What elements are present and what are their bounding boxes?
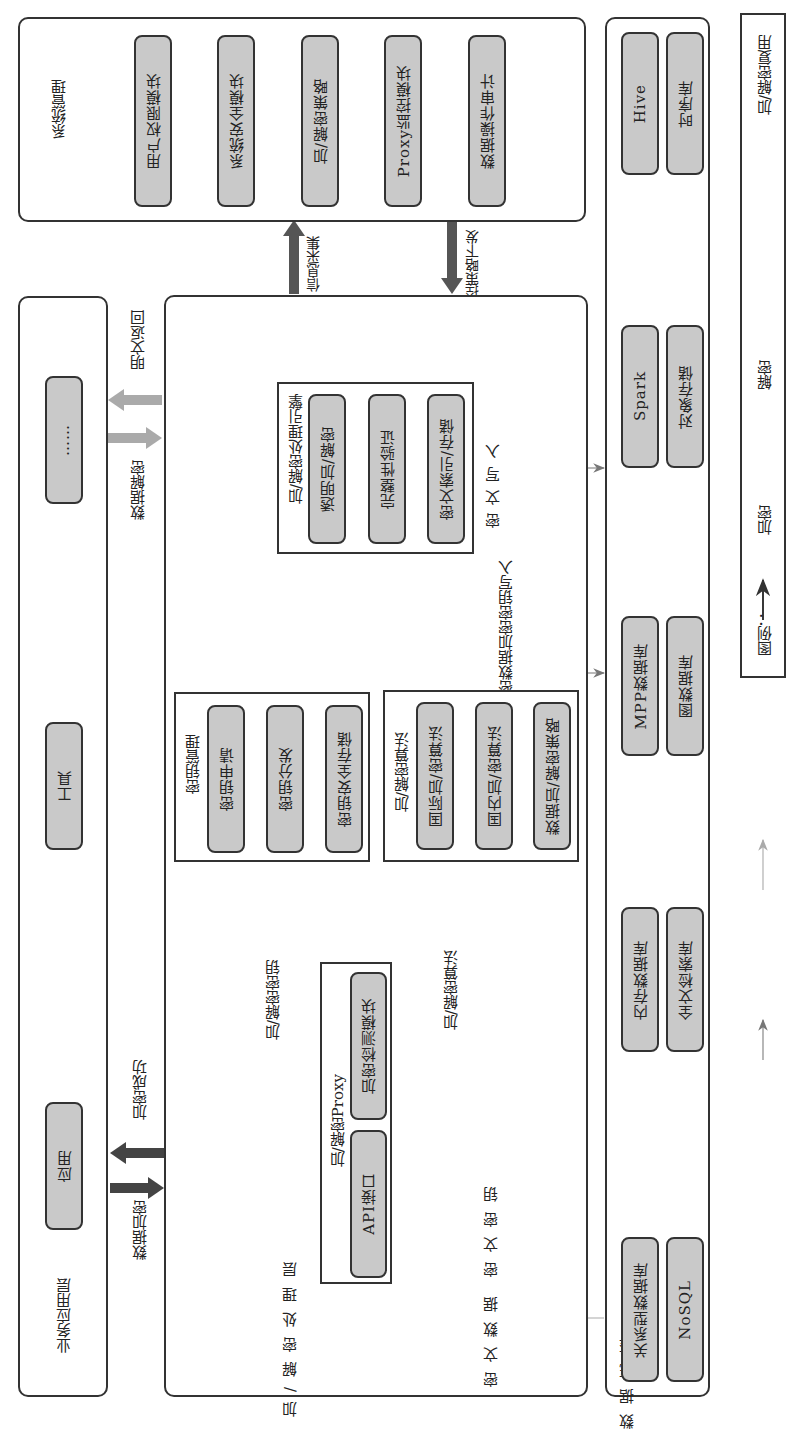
crypto-algorithm-label: 加/解密算法 (440, 950, 461, 1030)
key-request-step: 密钥申请 (207, 705, 245, 853)
data-encrypt-arrow (110, 1177, 164, 1199)
system-management-panel: 系统管理 用户权限模块 系统安全模块 加/解密策略 Proxy监控模块 数据操作… (18, 17, 586, 222)
system-security-module: 系统安全模块 (217, 35, 255, 207)
info-collect-label: 信息采集 (306, 236, 340, 292)
spark-store: Spark (621, 325, 659, 468)
key-secure-store-step: 密钥安全存储 (325, 705, 363, 853)
legend-box: 图例： 加密 解密 加/解密复用 (740, 13, 786, 678)
data-decrypt-arrow (108, 427, 162, 449)
legend-title: 图例： (754, 611, 775, 656)
business-layer-panel: 业务应用层 …… 工具 应用 (18, 296, 108, 1397)
timeseries-store: 时序库 (666, 32, 704, 175)
legend-decrypt-label: 解密 (754, 360, 775, 390)
encrypt-success-label: 加密成功 (129, 1060, 150, 1120)
fulltext-search-store: 全文检索库 (666, 907, 704, 1052)
cipher-write-label: 密文写入 (482, 436, 503, 532)
data-audit-module: 数据操作审计 (468, 35, 506, 207)
crypto-algorithm-title: 加/解密算法 (391, 732, 412, 812)
application-item: 应用 (45, 1102, 83, 1230)
processing-layer-title: 加/解密处理层 (279, 1252, 300, 1417)
hive-store: Hive (621, 32, 659, 175)
crypto-policy-module: 加/解密策略 (301, 35, 339, 207)
mpp-db-store: MPP数据库 (621, 616, 659, 756)
policy-dispatch-arrow (441, 222, 463, 294)
plaintext-return-label: 明文返回 (127, 310, 148, 370)
data-base-panel: 数据底座 关系型数据库 NoSQL 内存数据库 全文检索库 MPP数据库 图数据… (605, 17, 710, 1397)
key-distribute-step: 密钥分发 (266, 705, 304, 853)
cipher-data-label: 密文数据 (480, 1287, 501, 1387)
encrypt-detect-module: 加密检测模块 (350, 972, 387, 1120)
relational-db-store: 关系型数据库 (621, 1237, 659, 1382)
proxy-monitor-module: Proxy监控模块 (384, 35, 422, 207)
transparent-crypto-step: 透明加/解密 (308, 394, 346, 544)
data-encrypt-label: 数据加密 (129, 1200, 150, 1260)
memory-db-store: 内存数据库 (621, 907, 659, 1052)
crypto-engine-box: 加/解密处理引擎 透明加/解密 完整性验证 密文索引/存储 (277, 382, 474, 554)
crypto-key-label: 加/解密密钥 (262, 960, 283, 1040)
key-management-title: 密钥管理 (182, 734, 203, 794)
key-management-box: 密钥管理 密钥申请 密钥分发 密钥安全存储 (174, 692, 370, 862)
integrity-check-step: 完整性验证 (368, 394, 406, 544)
business-layer-title: 业务应用层 (53, 1278, 74, 1353)
tools-item: 工具 (45, 722, 83, 850)
plaintext-return-arrow (108, 389, 162, 411)
nosql-store: NoSQL (666, 1237, 704, 1382)
user-permission-module: 用户权限模块 (134, 35, 172, 207)
crypto-proxy-title: 加/解密Proxy (327, 1074, 348, 1167)
graph-db-store: 图数据库 (666, 616, 704, 756)
data-decrypt-label: 数据解密 (127, 460, 148, 520)
legend-reuse-label: 加/解密复用 (754, 35, 775, 115)
data-crypto-policy-step: 数据加/解密策略 (533, 702, 571, 850)
more-item: …… (45, 376, 83, 504)
domestic-algorithm-step: 国内加/密算法 (475, 702, 513, 850)
legend-encrypt-label: 加密 (754, 505, 775, 535)
api-interface-module: API接口 (350, 1130, 387, 1278)
cipher-index-store-step: 密文索引/存储 (427, 394, 465, 544)
crypto-proxy-box: 加/解密Proxy 加密检测模块 API接口 (320, 962, 392, 1284)
object-storage-store: 对象存储 (666, 325, 704, 468)
encrypt-success-arrow (110, 1142, 164, 1164)
system-management-title: 系统管理 (48, 79, 69, 139)
cipher-key-label: 密文密钥 (480, 1177, 501, 1277)
crypto-engine-title: 加/解密处理引擎 (285, 394, 306, 504)
info-collect-arrow (283, 220, 305, 294)
intl-algorithm-step: 国际加/密算法 (416, 702, 454, 850)
crypto-algorithm-box: 加/解密算法 国际加/密算法 国内加/密算法 数据加/解密策略 (383, 690, 579, 862)
